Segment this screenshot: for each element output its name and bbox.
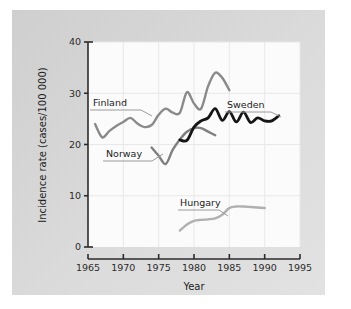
x-tick-label: 1970 [111,262,135,273]
series-label-finland: Finland [93,97,127,108]
x-axis-title: Year [182,281,205,292]
y-tick-label: 40 [69,36,81,47]
x-tick-label: 1985 [217,262,241,273]
y-tick-label: 10 [69,190,81,201]
x-axis-tick-labels: 1965197019751980198519901995 [76,262,312,273]
x-tick-label: 1995 [288,262,312,273]
series-label-norway: Norway [106,148,142,159]
x-tick-label: 1990 [253,262,277,273]
x-axis [88,254,300,259]
y-axis-title: Incidence rate (cases/100 000) [37,67,48,223]
x-tick-label: 1975 [147,262,171,273]
series-label-hungary: Hungary [180,197,221,208]
y-tick-label: 20 [69,139,81,150]
y-axis-tick-labels: 010203040 [69,36,81,252]
x-tick-label: 1965 [76,262,100,273]
line-chart: 010203040 1965197019751980198519901995 Y… [0,0,351,309]
y-tick-label: 30 [69,88,81,99]
figure-container: 010203040 1965197019751980198519901995 Y… [0,0,351,309]
y-tick-label: 0 [75,241,81,252]
series-label-sweden: Sweden [227,99,265,110]
x-tick-label: 1980 [182,262,206,273]
